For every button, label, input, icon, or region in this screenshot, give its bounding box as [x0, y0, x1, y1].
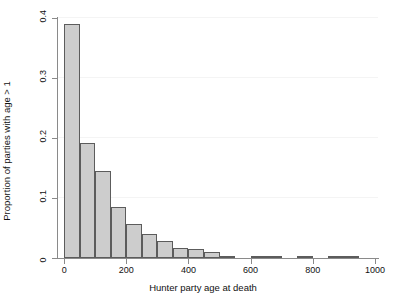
- x-tick-label: 0: [34, 266, 94, 275]
- x-tick: [251, 259, 252, 264]
- bar: [80, 143, 96, 258]
- bar: [188, 249, 204, 258]
- x-tick-label: 400: [158, 266, 218, 275]
- histogram-figure: Proportion of parties with age > 1 00.10…: [0, 0, 406, 302]
- x-tick-label: 1000: [345, 266, 405, 275]
- x-tick: [126, 259, 127, 264]
- x-tick-label: 800: [283, 266, 343, 275]
- bar-series: [58, 18, 378, 258]
- bar: [142, 234, 158, 258]
- x-tick: [313, 259, 314, 264]
- bar: [64, 24, 80, 258]
- bar: [173, 248, 189, 258]
- x-tick-label: 600: [221, 266, 281, 275]
- y-axis-title: Proportion of parties with age > 1: [0, 0, 14, 302]
- bar: [157, 241, 173, 258]
- x-tick: [64, 259, 65, 264]
- x-tick-label: 200: [96, 266, 156, 275]
- bar: [126, 224, 142, 258]
- bar: [111, 207, 127, 258]
- x-tick: [188, 259, 189, 264]
- bar: [95, 171, 111, 258]
- plot-area: [58, 18, 378, 258]
- y-axis-line: [57, 17, 58, 259]
- x-axis-title: Hunter party age at death: [0, 283, 406, 293]
- x-tick: [375, 259, 376, 264]
- x-axis-line: [57, 258, 379, 259]
